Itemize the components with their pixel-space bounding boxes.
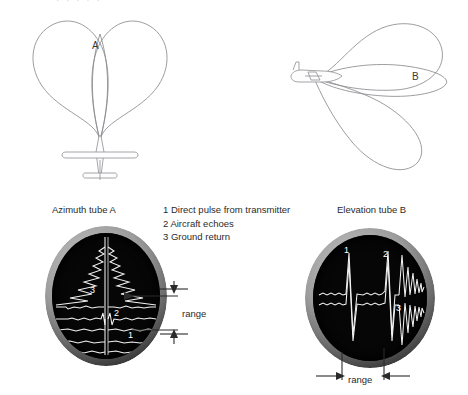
radar-lobe-figure: · · · · · x A xyxy=(0,0,468,395)
range-label-a: range xyxy=(182,308,206,319)
range-label-b: range xyxy=(348,374,372,385)
range-a-annotation xyxy=(124,281,188,344)
range-annotations xyxy=(0,0,468,395)
